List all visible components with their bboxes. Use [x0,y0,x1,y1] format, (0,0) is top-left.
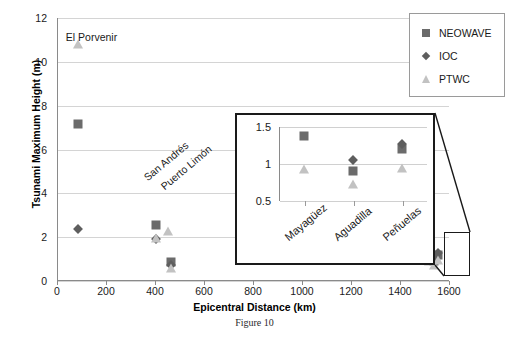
inset-x-tick-mark [305,201,306,206]
legend-label: IOC [439,50,458,62]
x-tick-label: 400 [130,285,180,297]
gridline [58,62,449,63]
x-tick-label: 1200 [326,285,376,297]
x-tick-mark [302,281,303,285]
x-axis-title: Epicentral Distance (km) [0,301,509,313]
inset-x-tick-mark [354,201,355,206]
x-tick-label: 1000 [277,285,327,297]
inset-panel: 0.511.5 MayagüezAguadillaPeñuelas [235,113,435,265]
data-point-neowave [152,221,161,230]
data-point-ptwc [166,263,176,272]
x-tick-mark [57,281,58,285]
x-tick-mark [155,281,156,285]
x-tick-label: 1600 [424,285,474,297]
x-tick-label: 200 [81,285,131,297]
legend-item-neowave[interactable]: NEOWAVE [419,21,504,44]
x-tick-mark [351,281,352,285]
square-icon [419,29,433,37]
inset-data-point-ptwc [397,163,407,172]
data-point-ptwc [151,234,161,243]
gridline [58,106,449,107]
x-tick-label: 0 [32,285,82,297]
x-tick-label: 800 [228,285,278,297]
x-tick-label: 1400 [375,285,425,297]
legend-label: PTWC [439,73,470,85]
data-point-ptwc [163,226,173,235]
y-axis-title: Tsunami Maximum Height (m) [30,4,42,264]
inset-y-tick-label: 1 [237,158,271,170]
legend: NEOWAVEIOCPTWC [409,13,505,97]
inset-gridline [280,127,427,128]
x-tick-mark [449,281,450,285]
inset-category-label: Peñuelas [381,204,424,243]
inset-y-tick-label: 1.5 [237,121,271,133]
inset-data-point-neowave [349,167,358,176]
inset-data-point-neowave [299,131,308,140]
inset-category-label: Aguadilla [331,205,373,243]
legend-item-ptwc[interactable]: PTWC [419,67,504,90]
diamond-icon [419,53,433,59]
x-tick-mark [400,281,401,285]
callout-box-puerto-rico [444,232,470,276]
gridline [58,18,449,19]
figure-10: 024681012 02004006008001000120014001600 … [0,0,509,338]
inset-category-label: Mayagüez [282,201,329,243]
x-tick-mark [253,281,254,285]
point-annotation: El Porvenir [66,31,117,43]
inset-data-point-ptwc [348,179,358,188]
x-tick-mark [106,281,107,285]
x-tick-label: 600 [179,285,229,297]
data-point-neowave [73,120,82,129]
inset-y-tick-label: 0.5 [237,195,271,207]
legend-item-ioc[interactable]: IOC [419,44,504,67]
x-tick-mark [204,281,205,285]
inset-data-point-ptwc [299,165,309,174]
triangle-icon [419,75,433,83]
inset-x-tick-mark [403,201,404,206]
figure-caption: Figure 10 [0,317,509,328]
legend-label: NEOWAVE [439,27,492,39]
